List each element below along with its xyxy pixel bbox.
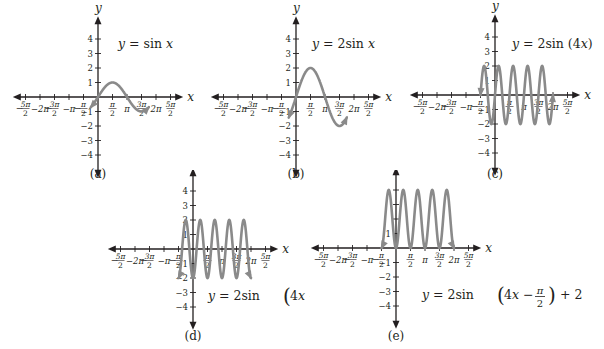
x-axis-right-arrow-icon <box>175 94 183 101</box>
svg-text:2: 2 <box>466 260 471 269</box>
x-tick-label-52: −5π2 <box>214 100 230 118</box>
svg-text:2: 2 <box>449 107 454 116</box>
caption-e: (e) <box>388 329 404 343</box>
x-axis-left-arrow-icon <box>211 94 219 101</box>
equation-d: y = 2sin(4x −π2) <box>207 284 310 310</box>
svg-text:y = 2sin: y = 2sin <box>421 287 474 302</box>
y-tick-label-2: 2 <box>286 63 291 73</box>
y-axis-label: y <box>292 1 300 15</box>
x-tick-label-32: 3π2 <box>335 100 346 118</box>
x-tick-label-2: 2π <box>448 255 460 265</box>
svg-text:2: 2 <box>408 260 413 269</box>
x-tick-label-52: −5π2 <box>111 252 127 270</box>
equation-a: y = sin x <box>117 36 173 51</box>
x-tick-label-2: π2 <box>407 251 415 269</box>
x-axis-label: x <box>584 88 591 102</box>
graph-panel-a: xy−5π2−2π−3π2−π−π2π2π3π22π5π2−4−3−2−1123… <box>0 0 200 180</box>
y-tick-label-neg4: −4 <box>378 301 391 311</box>
svg-text:2: 2 <box>23 109 28 118</box>
svg-text:2: 2 <box>52 109 57 118</box>
svg-text:y = 2sin: y = 2sin <box>207 288 260 303</box>
equation-b: y = 2sin x <box>311 36 375 51</box>
y-tick-label-neg1: −1 <box>378 258 391 268</box>
y-tick-label-4: 4 <box>485 32 490 42</box>
svg-text:2: 2 <box>221 109 226 118</box>
x-tick-label-2: 2π <box>150 104 162 114</box>
x-tick-label-2: 2π <box>245 256 257 266</box>
x-tick-label-32: −3π2 <box>45 100 61 118</box>
y-axis-up-arrow-icon <box>95 16 102 24</box>
x-tick-label-52: 5π2 <box>261 252 272 270</box>
x-axis-label: x <box>485 241 492 255</box>
x-tick-label-32: −3π2 <box>243 100 259 118</box>
y-tick-label-3: 3 <box>485 47 490 57</box>
y-axis-down-arrow-icon <box>393 321 400 329</box>
x-axis-left-arrow-icon <box>410 92 418 99</box>
svg-text:2: 2 <box>337 109 342 118</box>
svg-text:π: π <box>536 285 544 296</box>
x-tick-label-52: 5π2 <box>166 100 177 118</box>
x-axis-left-arrow-icon <box>311 245 319 252</box>
y-tick-label-3: 3 <box>286 49 291 59</box>
svg-text:): ) <box>548 283 556 307</box>
svg-text:2: 2 <box>308 109 313 118</box>
svg-text:2: 2 <box>263 261 268 270</box>
equation-c: y = 2sin (4x) <box>511 36 593 51</box>
y-tick-label-neg3: −3 <box>378 287 391 297</box>
y-tick-label-neg3: −3 <box>477 134 490 144</box>
y-tick-label-4: 4 <box>286 34 291 44</box>
svg-text:2: 2 <box>110 109 115 118</box>
axes: xy−5π2−2π−3π2−π−π2π2π3π22π5π2−4−3−2−1123… <box>211 1 392 178</box>
svg-text:2: 2 <box>437 260 442 269</box>
y-tick-label-neg4: −4 <box>175 302 188 312</box>
svg-text:2: 2 <box>168 109 173 118</box>
y-tick-label-4: 4 <box>183 186 188 196</box>
y-axis-up-arrow-icon <box>293 16 300 24</box>
x-tick-label-2: π2 <box>109 100 117 118</box>
x-axis-right-arrow-icon <box>270 246 278 253</box>
x-tick-label-2: 2π <box>348 104 360 114</box>
svg-text:2: 2 <box>250 109 255 118</box>
x-axis-right-arrow-icon <box>373 94 381 101</box>
graph-panel-e: xy−5π2−2π−3π2−π−π2π2π3π22π5π2−4−3−2−11y … <box>300 170 604 349</box>
y-tick-label-neg3: −3 <box>80 136 93 146</box>
x-axis-left-arrow-icon <box>13 94 21 101</box>
svg-text:2: 2 <box>147 261 152 270</box>
graph-panel-d: xy−5π2−2π−3π2−π−π2π2π3π22π5π2−4−3−2−1123… <box>100 170 310 349</box>
x-axis-right-arrow-icon <box>473 245 481 252</box>
curve-2sin-4x-minus-pi-over-2-plus-2 <box>382 190 455 248</box>
svg-text:2: 2 <box>321 260 326 269</box>
x-axis-right-arrow-icon <box>572 92 580 99</box>
x-tick-label-52: −5π2 <box>413 98 429 116</box>
y-tick-label-neg2: −2 <box>378 272 391 282</box>
x-tick-label-52: 5π2 <box>563 98 574 116</box>
x-tick-label-: π <box>123 104 130 114</box>
y-tick-label-neg3: −3 <box>278 136 291 146</box>
x-axis-label: x <box>385 90 392 104</box>
y-axis-label: y <box>491 0 499 13</box>
y-axis-up-arrow-icon <box>492 14 499 22</box>
y-tick-label-1: 1 <box>88 78 93 88</box>
y-tick-label-neg4: −4 <box>477 148 490 158</box>
x-axis-left-arrow-icon <box>108 246 116 253</box>
y-axis-up-arrow-icon <box>393 170 400 175</box>
x-tick-label-32: −3π2 <box>140 252 156 270</box>
svg-text:+ 2: + 2 <box>560 287 582 302</box>
graph-panel-c: xy−5π2−2π−3π2−π−π2π2π3π22π5π2−4−3−2−1123… <box>400 0 604 180</box>
y-axis-label: y <box>94 1 102 15</box>
y-tick-label-neg4: −4 <box>278 150 291 160</box>
y-tick-label-1: 1 <box>386 229 391 239</box>
y-tick-label-1: 1 <box>286 78 291 88</box>
svg-text:2: 2 <box>350 260 355 269</box>
x-axis-label: x <box>282 242 289 256</box>
svg-text:2: 2 <box>118 261 123 270</box>
svg-text:2: 2 <box>565 107 570 116</box>
svg-text:2: 2 <box>366 109 371 118</box>
y-axis-up-arrow-icon <box>190 170 197 176</box>
y-tick-label-neg2: −2 <box>278 121 291 131</box>
x-tick-label-52: −5π2 <box>16 100 32 118</box>
graph-panel-b: xy−5π2−2π−3π2−π−π2π2π3π22π5π2−4−3−2−1123… <box>200 0 400 180</box>
equation-e: y = 2sin(4x −π2)+ 2 <box>421 283 582 309</box>
svg-text:2: 2 <box>537 298 543 309</box>
svg-text:4x −: 4x − <box>504 287 533 302</box>
